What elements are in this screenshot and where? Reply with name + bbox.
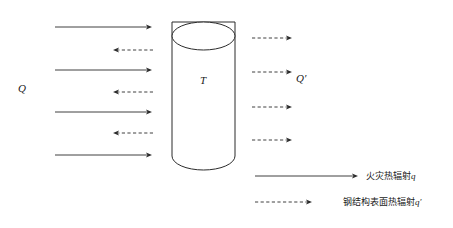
legend-label-symbol-2: q′ — [415, 197, 423, 207]
incoming-heat-flux-arrow-group — [55, 25, 152, 158]
temperature-label: T — [200, 74, 207, 86]
reflected-heat-flux-arrow-group — [113, 48, 153, 136]
legend-label-text-1: 火灾热辐射 — [366, 170, 411, 181]
cylinder-top-ellipse — [172, 22, 235, 50]
heat-radiation-diagram: Q Q′ T 火灾热辐射q钢结构表面热辐射q′ — [0, 0, 453, 228]
outgoing-heat-label: Q′ — [296, 72, 307, 84]
diagram-canvas: Q Q′ T 火灾热辐射q钢结构表面热辐射q′ — [0, 0, 453, 228]
steel-column-cylinder — [172, 22, 235, 170]
legend-label-2: 钢结构表面热辐射q′ — [343, 196, 423, 207]
emitted-heat-flux-arrow-group — [252, 36, 292, 143]
legend-label-1: 火灾热辐射q — [366, 170, 416, 181]
legend-label-symbol-1: q — [411, 171, 416, 181]
incoming-heat-label: Q — [18, 82, 26, 94]
legend-label-text-2: 钢结构表面热辐射 — [343, 196, 415, 207]
